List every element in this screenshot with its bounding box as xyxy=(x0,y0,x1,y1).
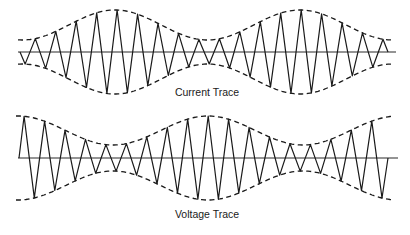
current-trace-group: Current Trace xyxy=(18,10,396,98)
voltage-envelope-lower xyxy=(16,171,392,200)
current-trace-label: Current Trace xyxy=(175,86,239,98)
waveform-diagram: Current Trace Voltage Trace xyxy=(0,0,410,235)
voltage-trace-label: Voltage Trace xyxy=(175,208,239,220)
voltage-trace-group: Voltage Trace xyxy=(16,116,398,220)
voltage-envelope-upper xyxy=(16,116,392,145)
